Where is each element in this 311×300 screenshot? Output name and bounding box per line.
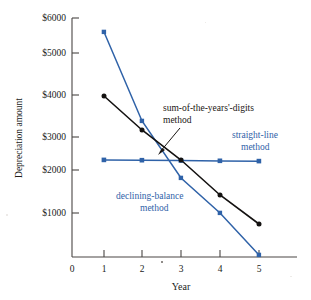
y-tick-label-5000: $5000 bbox=[42, 48, 66, 58]
syd-annotation-line1: sum-of-the-years'-digits bbox=[163, 103, 254, 113]
data-point-marker bbox=[218, 159, 223, 164]
data-point-marker bbox=[102, 158, 107, 163]
y-tick-label-3000: $3000 bbox=[42, 132, 66, 142]
data-point-marker bbox=[218, 211, 222, 215]
x-tick-label-1: 1 bbox=[102, 264, 107, 274]
x-tick-label-5: 5 bbox=[257, 264, 262, 274]
y-tick-label-1000: $1000 bbox=[42, 208, 66, 218]
x-tick-label-2: 2 bbox=[140, 264, 145, 274]
data-point-marker bbox=[140, 128, 145, 133]
x-tick-label-3: 3 bbox=[179, 264, 184, 274]
data-point-marker bbox=[179, 176, 183, 180]
y-tick-label-6000: $6000 bbox=[42, 13, 66, 23]
data-point-marker bbox=[257, 159, 262, 164]
x-tick-label-4: 4 bbox=[218, 264, 223, 274]
annotation-sum-of-years-digits: sum-of-the-years'-digits method bbox=[158, 103, 254, 155]
data-point-marker bbox=[179, 158, 184, 163]
syd-leader-line bbox=[160, 128, 180, 152]
data-point-marker bbox=[140, 158, 145, 163]
y-axis-title: Depreciation amount bbox=[14, 98, 24, 178]
straight-line-annotation-line1: straight-line bbox=[232, 130, 278, 140]
data-point-marker bbox=[218, 193, 223, 198]
declining-balance-annotation-line2: method bbox=[140, 203, 169, 213]
y-tick-label-2000: $2000 bbox=[42, 165, 66, 175]
annotation-declining-balance: declining-balance method bbox=[116, 191, 184, 213]
data-point-marker bbox=[102, 30, 106, 34]
annotation-straight-line: straight-line method bbox=[232, 130, 278, 152]
data-point-marker bbox=[257, 222, 262, 227]
scan-artifact-dot bbox=[161, 261, 163, 263]
data-point-marker bbox=[257, 253, 261, 257]
y-tick-label-4000: $4000 bbox=[42, 90, 66, 100]
depreciation-chart-figure: $6000 $5000 $4000 $3000 $2000 $1000 0 1 … bbox=[0, 0, 311, 300]
axis-group bbox=[72, 18, 297, 263]
x-tick-label-0: 0 bbox=[70, 264, 75, 274]
declining-balance-path bbox=[104, 32, 259, 255]
syd-annotation-line2: method bbox=[163, 115, 192, 125]
chart-svg: $6000 $5000 $4000 $3000 $2000 $1000 0 1 … bbox=[0, 0, 311, 300]
x-axis-title: Year bbox=[172, 281, 191, 292]
declining-balance-annotation-line1: declining-balance bbox=[116, 191, 184, 201]
data-point-marker bbox=[102, 94, 107, 99]
straight-line-annotation-line2: method bbox=[241, 142, 270, 152]
series-declining-balance bbox=[102, 30, 261, 257]
data-point-marker bbox=[140, 119, 144, 123]
